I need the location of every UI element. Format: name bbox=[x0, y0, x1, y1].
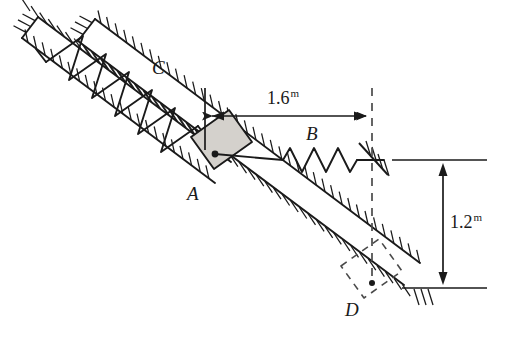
zigzag-spring-c bbox=[36, 36, 208, 152]
label-spring-c: C bbox=[152, 58, 165, 77]
fixed-hatched-support bbox=[359, 141, 389, 176]
diagram-canvas bbox=[0, 0, 522, 358]
hatch-upper-rail-inner bbox=[25, 30, 209, 179]
dimension-label-vertical: 1.2m bbox=[450, 212, 482, 231]
upper-rail-inner-edge bbox=[22, 38, 215, 183]
label-spring-b: B bbox=[306, 124, 318, 143]
zigzag-spring-b bbox=[215, 148, 384, 172]
upper-rail-top-cap bbox=[22, 17, 38, 38]
dim-arrowhead-right bbox=[354, 112, 366, 121]
dim-arrowhead-up bbox=[439, 163, 448, 176]
dimension-vertical-unit: m bbox=[474, 211, 483, 223]
hatch-bottom-ground bbox=[414, 289, 433, 305]
label-position-d: D bbox=[345, 300, 359, 319]
dimension-horizontal-value: 1.6 bbox=[267, 88, 290, 108]
dimension-horizontal-unit: m bbox=[291, 87, 300, 99]
hatch-top-caps bbox=[14, 14, 93, 34]
support-face bbox=[359, 143, 388, 175]
dim-arrowhead-down bbox=[439, 272, 448, 285]
dimension-label-horizontal: 1.6m bbox=[267, 88, 299, 107]
block-d-center-dot bbox=[369, 280, 375, 286]
label-block-a: A bbox=[187, 184, 199, 203]
dimension-vertical-value: 1.2 bbox=[450, 212, 473, 232]
physics-diagram: C A B D 1.6m 1.2m bbox=[0, 0, 522, 358]
